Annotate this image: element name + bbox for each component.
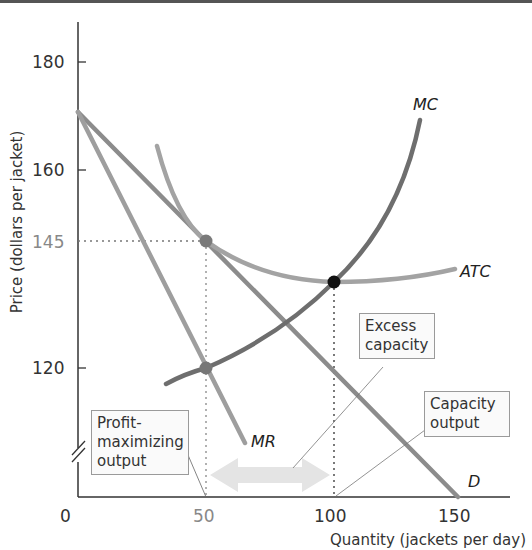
price-point [200,235,213,248]
excess-capacity-note: Excess capacity [359,313,435,359]
leader-capacity [336,430,425,496]
capacity-output-note: Capacity output [424,391,510,437]
leader-profit-max [188,455,206,497]
x-axis-title: Quantity (jackets per day) [330,531,526,549]
y-tick-145: 145 [32,232,64,252]
atc-label: ATC [459,262,492,281]
d-label: D [468,472,480,491]
mr-mc-point [200,362,213,375]
min-atc-point [328,276,341,289]
x-tick-0: 0 [60,506,71,526]
y-axis-title: Price (dollars per jacket) [8,131,26,314]
mr-label: MR [251,432,276,451]
x-tick-50: 50 [193,506,215,526]
leader-excess [293,367,383,468]
y-tick-120: 120 [32,358,64,378]
mc-label: MC [413,95,439,114]
atc-curve [157,146,455,282]
y-tick-160: 160 [32,160,64,180]
x-tick-100: 100 [314,506,346,526]
chart-canvas: 180 160 145 120 0 50 100 150 Quantity (j… [0,0,532,550]
excess-capacity-arrow-icon [210,458,330,492]
profit-maximizing-output-note: Profit- maximizing output [91,410,189,475]
x-tick-150: 150 [438,506,470,526]
y-tick-180: 180 [32,52,64,72]
